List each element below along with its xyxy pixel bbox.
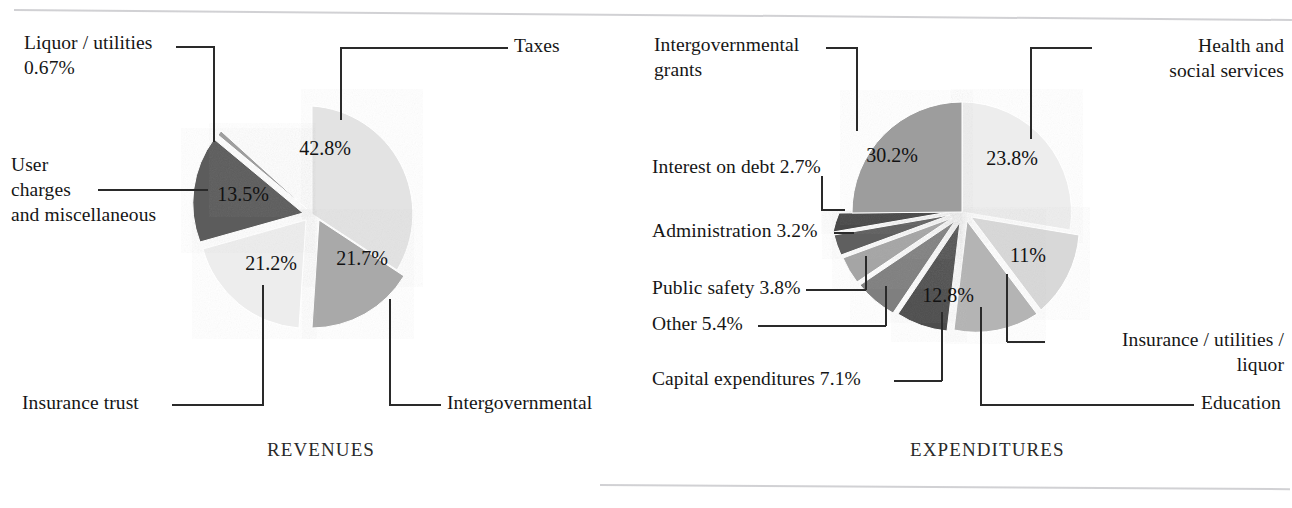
- callout-education: Education: [1201, 390, 1292, 415]
- expenditures-caption: EXPENDITURES: [910, 439, 1065, 461]
- callout-other: Other 5.4%: [652, 311, 882, 336]
- dual-pie-chart-figure: 42.8% 21.7% 21.2% 13.5% Liquor / utiliti…: [0, 0, 1292, 508]
- leader-intergovernmental-grants-vertical: [856, 47, 858, 131]
- expenditures-pct-health-social: 23.8%: [986, 147, 1038, 170]
- callout-health-social-line2: social services: [1096, 58, 1284, 83]
- callout-insurance-utilities-liquor-line1: Insurance / utilities /: [1052, 327, 1284, 352]
- leader-user-charges-horizontal: [98, 189, 208, 191]
- leader-education-horizontal: [980, 404, 1194, 406]
- revenues-caption: REVENUES: [267, 439, 375, 461]
- leader-capital-expenditures-vertical: [941, 312, 943, 381]
- leader-interest-on-debt-vertical: [821, 176, 823, 210]
- leader-insurance-trust-horizontal: [172, 404, 264, 406]
- leader-liquor-utilities-horizontal: [176, 46, 214, 48]
- leader-education-vertical: [980, 307, 982, 405]
- callout-liquor-utilities-line2: 0.67%: [24, 55, 234, 80]
- callout-liquor-utilities-line1: Liquor / utilities: [24, 30, 234, 55]
- callout-capital-expenditures: Capital expenditures 7.1%: [652, 366, 942, 391]
- revenues-pct-user-charges: 13.5%: [217, 183, 269, 206]
- leader-health-social-vertical: [1030, 47, 1032, 139]
- leader-administration-horizontal: [834, 232, 854, 234]
- revenues-pct-taxes: 42.8%: [299, 137, 351, 160]
- callout-intergovernmental: Intergovernmental: [447, 390, 667, 415]
- leader-intergovernmental-vertical: [389, 299, 391, 405]
- leader-liquor-utilities-vertical: [213, 46, 215, 142]
- leader-intergovernmental-grants-horizontal: [826, 47, 858, 49]
- callout-administration: Administration 3.2%: [652, 218, 882, 243]
- callout-user-charges-line1: User: [11, 152, 201, 177]
- callout-user-charges-line3: and miscellaneous: [11, 202, 221, 227]
- leader-health-social-horizontal: [1030, 47, 1092, 49]
- leader-taxes-horizontal: [340, 47, 508, 49]
- revenues-pie-chart: 42.8% 21.7% 21.2% 13.5% Liquor / utiliti…: [0, 0, 646, 508]
- callout-insurance-utilities-liquor-line2: liquor: [1052, 352, 1284, 377]
- leader-insurance-trust-vertical: [262, 285, 264, 405]
- leader-taxes-vertical: [340, 47, 342, 120]
- expenditures-pct-education: 12.8%: [922, 284, 974, 307]
- leader-capital-expenditures-horizontal: [894, 380, 942, 382]
- callout-intergovernmental-grants-line2: grants: [654, 57, 894, 82]
- leader-other-vertical: [885, 286, 887, 326]
- leader-interest-on-debt-horizontal: [821, 209, 845, 211]
- revenues-pct-intergovernmental: 21.7%: [336, 247, 388, 270]
- callout-public-safety: Public safety 3.8%: [652, 275, 882, 300]
- expenditures-pct-insurance-utilities-liquor: 11%: [1010, 244, 1046, 267]
- callout-taxes: Taxes: [514, 33, 634, 58]
- leader-public-safety-horizontal: [806, 289, 866, 291]
- callout-health-social-line1: Health and: [1096, 33, 1284, 58]
- leader-insurance-utilities-liquor-horizontal: [1007, 341, 1045, 343]
- leader-insurance-utilities-liquor-vertical: [1006, 274, 1008, 342]
- callout-interest-on-debt: Interest on debt 2.7%: [652, 154, 882, 179]
- leader-intergovernmental-horizontal: [389, 404, 441, 406]
- leader-other-horizontal: [758, 325, 886, 327]
- expenditures-pie-chart: 30.2% 23.8% 11% 12.8% Intergovernmental …: [646, 0, 1292, 508]
- callout-insurance-trust: Insurance trust: [22, 390, 212, 415]
- callout-intergovernmental-grants-line1: Intergovernmental: [654, 32, 894, 57]
- revenues-pct-insurance-trust: 21.2%: [245, 252, 297, 275]
- leader-public-safety-vertical: [865, 256, 867, 290]
